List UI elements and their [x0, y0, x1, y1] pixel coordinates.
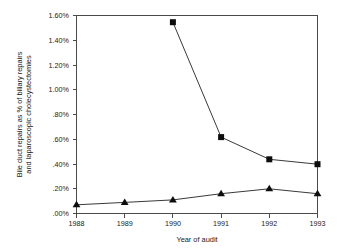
plot-frame [77, 16, 318, 214]
y-tick-label-1.00: 1.00% [49, 85, 70, 94]
triangle-marker-1989 [121, 198, 129, 205]
chart-container: 1.60% 1.40% 1.20% 1.00% .80% .60% .40% .… [0, 0, 343, 252]
square-marker-1992 [266, 156, 272, 162]
x-tick-label-1992: 1992 [261, 219, 277, 228]
x-tick-label-1988: 1988 [69, 219, 85, 228]
y-tick-label-0.40: .40% [53, 160, 70, 169]
y-tick-label-0.20: .20% [53, 184, 70, 193]
square-marker-1991 [218, 134, 224, 140]
x-axis-title: Year of audit [176, 235, 217, 244]
y-tick-label-0.00: .00% [53, 209, 70, 218]
square-marker-1990 [170, 19, 176, 25]
y-tick-label-1.60: 1.60% [49, 11, 70, 20]
triangle-marker-1992 [265, 185, 273, 192]
x-axis-ticks [77, 214, 318, 218]
line-chart: 1.60% 1.40% 1.20% 1.00% .80% .60% .40% .… [0, 0, 343, 252]
y-axis-ticks [73, 16, 77, 214]
x-tick-label-1989: 1989 [117, 219, 133, 228]
x-tick-label-1990: 1990 [165, 219, 181, 228]
triangle-marker-1988 [73, 201, 81, 208]
y-tick-label-1.40: 1.40% [49, 36, 70, 45]
y-tick-label-0.60: .60% [53, 135, 70, 144]
x-tick-label-1993: 1993 [310, 219, 326, 228]
y-axis-title-line-2: and laparoscopic cholecystectomies [24, 55, 33, 174]
square-series-line [173, 22, 318, 164]
y-axis-title-line-1: Bile duct repairs as % of biliary repair… [15, 51, 24, 177]
triangle-series-line [77, 189, 318, 205]
y-tick-label-0.80: .80% [53, 110, 70, 119]
y-tick-label-1.20: 1.20% [49, 61, 70, 70]
x-tick-label-1991: 1991 [213, 219, 229, 228]
square-marker-1993 [315, 161, 321, 167]
